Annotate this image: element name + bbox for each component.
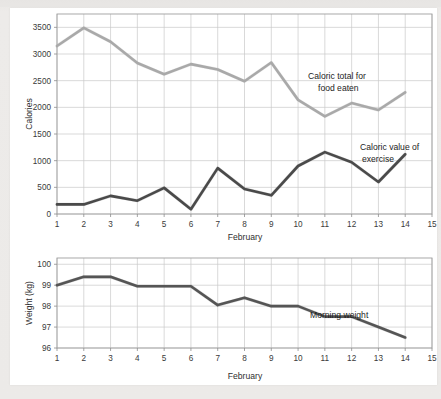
x-tick-label: 2 <box>82 354 87 363</box>
y-tick-label: 3500 <box>33 23 52 32</box>
y-tick-label: 2000 <box>33 103 52 112</box>
x-tick-label: 8 <box>242 220 247 229</box>
x-tick-label: 13 <box>374 354 384 363</box>
calories-y-axis-title: Calories <box>24 98 34 130</box>
x-tick-label: 14 <box>401 220 411 229</box>
calories-data-lines <box>57 28 405 209</box>
x-tick-label: 11 <box>321 220 330 229</box>
x-tick-label: 3 <box>108 354 113 363</box>
x-tick-label: 7 <box>215 354 220 363</box>
figure-card: 3500300025002000150010005000 12345678910… <box>10 8 437 385</box>
x-tick-label: 12 <box>347 220 357 229</box>
y-tick-label: 3000 <box>33 50 52 59</box>
x-tick-label: 11 <box>321 354 330 363</box>
exercise-annotation-line2: exercise <box>362 154 394 164</box>
y-tick-label: 1000 <box>33 157 52 166</box>
x-tick-label: 6 <box>189 220 194 229</box>
food-annotation-line2: food eaten <box>318 83 359 93</box>
y-tick-label: 0 <box>46 210 51 219</box>
x-tick-label: 1 <box>55 220 60 229</box>
x-tick-label: 8 <box>242 354 247 363</box>
x-tick-label: 5 <box>162 220 167 229</box>
page-top-edge <box>0 0 441 7</box>
x-tick-label: 7 <box>215 220 220 229</box>
x-tick-label: 15 <box>427 220 437 229</box>
data-line-shadow <box>57 277 405 338</box>
calories-x-tick-labels: 123456789101112131415 <box>55 220 437 229</box>
weight-data-lines <box>57 277 405 338</box>
y-tick-label: 500 <box>37 183 51 192</box>
y-tick-label: 99 <box>42 281 52 290</box>
y-tick-label: 100 <box>37 260 51 269</box>
weight-annotation: Morning weight <box>310 310 369 320</box>
weight-y-tick-labels: 10099989796 <box>37 260 51 353</box>
y-tick-label: 2500 <box>33 77 52 86</box>
screenshot-root: 3500300025002000150010005000 12345678910… <box>0 0 441 399</box>
food-annotation-line1: Caloric total for <box>308 71 366 81</box>
x-tick-label: 9 <box>269 220 274 229</box>
y-tick-label: 96 <box>42 344 52 353</box>
y-tick-label: 97 <box>42 323 52 332</box>
weight-gridlines <box>57 258 432 348</box>
calories-chart: 3500300025002000150010005000 12345678910… <box>10 8 437 244</box>
x-tick-label: 10 <box>294 354 304 363</box>
weight-chart-svg: 10099989796 123456789101112131415 Weight… <box>10 244 437 385</box>
x-tick-label: 14 <box>401 354 411 363</box>
x-tick-label: 4 <box>135 220 140 229</box>
x-tick-label: 4 <box>135 354 140 363</box>
weight-x-tick-labels: 123456789101112131415 <box>55 354 437 363</box>
weight-y-axis-title: Weight (kg) <box>24 281 34 325</box>
x-tick-label: 9 <box>269 354 274 363</box>
exercise-annotation-line1: Caloric value of <box>360 142 420 152</box>
data-line-morning-weight <box>57 277 405 338</box>
weight-chart: 10099989796 123456789101112131415 Weight… <box>10 244 437 385</box>
y-tick-label: 1500 <box>33 130 52 139</box>
calories-x-axis-title: February <box>228 232 263 242</box>
x-tick-label: 13 <box>374 220 384 229</box>
weight-x-axis-title: February <box>228 371 263 381</box>
x-tick-label: 2 <box>82 220 87 229</box>
x-tick-label: 3 <box>108 220 113 229</box>
y-tick-label: 98 <box>42 302 52 311</box>
calories-chart-svg: 3500300025002000150010005000 12345678910… <box>10 8 437 244</box>
x-tick-label: 15 <box>427 354 437 363</box>
x-tick-label: 10 <box>294 220 304 229</box>
x-tick-label: 1 <box>55 354 60 363</box>
x-tick-label: 6 <box>189 354 194 363</box>
x-tick-label: 5 <box>162 354 167 363</box>
x-tick-label: 12 <box>347 354 357 363</box>
calories-y-tick-labels: 3500300025002000150010005000 <box>33 23 52 219</box>
